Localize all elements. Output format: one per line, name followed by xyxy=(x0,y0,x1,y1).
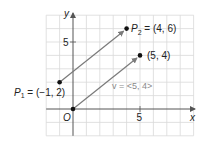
y-tick-label-5: 5 xyxy=(63,37,69,48)
origin-label: O xyxy=(63,112,71,123)
x-tick-label-5: 5 xyxy=(137,112,143,123)
p1-label: P1 = (−1, 2) xyxy=(14,87,65,100)
point-5-4-label: (5, 4) xyxy=(147,50,170,61)
point-origin xyxy=(71,107,76,112)
vector-diagram: 5 5 x y O P2 = (4, 6) (5, 4) P1 = (−1, 2… xyxy=(0,0,209,144)
vector-p1-p2 xyxy=(60,31,124,82)
p2-label: P2 = (4, 6) xyxy=(131,23,176,36)
point-p2 xyxy=(124,26,129,31)
point-p1 xyxy=(57,80,62,85)
p2-label-rest: = (4, 6) xyxy=(142,23,177,34)
p1-label-rest: = (−1, 2) xyxy=(25,87,66,98)
y-axis-label: y xyxy=(63,8,70,19)
point-5-4 xyxy=(138,53,143,58)
x-axis-label: x xyxy=(189,112,196,123)
vector-v-label: v = <5, 4> xyxy=(112,81,152,91)
